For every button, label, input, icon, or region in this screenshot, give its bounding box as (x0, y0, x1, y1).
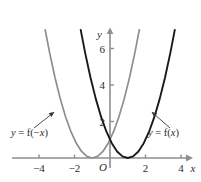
y-tick-label-4: 4 (100, 79, 106, 91)
x-tick-label-minus-2: −2 (69, 162, 81, 174)
ann-left-close: ) (44, 127, 48, 139)
x-tick-label-2: 2 (143, 162, 149, 174)
ann-right-eq: = f( (153, 127, 172, 139)
y-tick-label-2: 2 (100, 116, 106, 128)
origin-label: O (99, 161, 107, 173)
plot-canvas: −4 −2 2 4 2 4 6 O y x y = f(−x) y = f(x) (0, 0, 201, 182)
curve-annotation-f-x: y = f(x) (147, 127, 180, 139)
leader-arrow-f-neg-x (34, 112, 55, 128)
x-tick-label-minus-4: −4 (33, 162, 45, 174)
parabola-transformation-figure: −4 −2 2 4 2 4 6 O y x y = f(−x) y = f(x) (0, 0, 201, 182)
y-axis-label: y (96, 28, 102, 40)
ann-left-eq: = f(− (16, 127, 40, 139)
curve-f-of-negative-x (45, 30, 139, 158)
x-tick-label-4: 4 (178, 162, 184, 174)
curve-f-of-x (81, 30, 175, 158)
ann-right-close: ) (176, 127, 180, 139)
x-axis-label: x (190, 162, 196, 174)
y-tick-label-6: 6 (100, 43, 106, 55)
curve-annotation-f-neg-x: y = f(−x) (10, 127, 48, 139)
